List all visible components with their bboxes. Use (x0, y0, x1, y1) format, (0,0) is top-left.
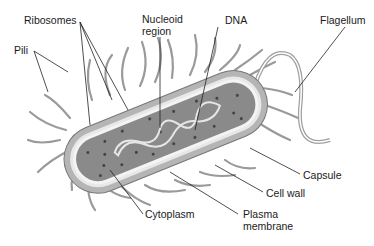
label-nucleoid-line1: Nucleoid (142, 13, 183, 25)
label-plasma-membrane: Plasma membrane (243, 208, 293, 232)
label-pili: Pili (14, 44, 28, 56)
label-cytoplasm: Cytoplasm (145, 208, 195, 220)
label-flagellum: Flagellum (320, 14, 366, 26)
label-plasma-line2: membrane (243, 220, 293, 232)
label-ribosomes: Ribosomes (24, 14, 77, 26)
label-capsule: Capsule (303, 169, 342, 181)
label-dna: DNA (225, 14, 247, 26)
label-cell-wall: Cell wall (266, 187, 305, 199)
label-nucleoid: Nucleoid region (142, 13, 183, 37)
label-plasma-line1: Plasma (243, 208, 293, 220)
label-nucleoid-line2: region (142, 25, 183, 37)
